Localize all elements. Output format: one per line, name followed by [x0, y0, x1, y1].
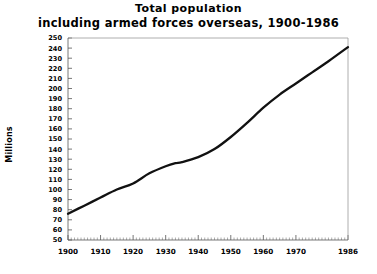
x-tick-label: 1960 [253, 247, 273, 256]
y-tick-label: 120 [48, 166, 62, 174]
population-line [68, 47, 348, 214]
y-tick-label: 60 [53, 226, 63, 234]
y-tick-label: 100 [48, 186, 62, 194]
y-tick-label: 230 [48, 55, 62, 63]
x-tick-label: 1950 [221, 247, 241, 256]
y-tick-label: 130 [48, 156, 62, 164]
y-tick-label: 160 [48, 125, 62, 133]
y-tick-label: 50 [53, 236, 63, 244]
x-tick-label: 1920 [123, 247, 143, 256]
x-tick-label: 1970 [286, 247, 306, 256]
y-tick-label: 80 [53, 206, 63, 214]
y-tick-label: 170 [48, 115, 62, 123]
x-tick-label: 1930 [156, 247, 176, 256]
x-tick-group [68, 235, 348, 240]
y-tick-label: 190 [48, 95, 62, 103]
y-tick-label: 180 [48, 105, 62, 113]
chart-svg: 5060708090100110120130140150160170180190… [0, 0, 377, 274]
y-tick-label: 200 [48, 85, 62, 93]
y-tick-label: 70 [53, 216, 63, 224]
x-tick-label: 1910 [91, 247, 111, 256]
y-tick-label: 240 [48, 45, 62, 53]
plot-area: 5060708090100110120130140150160170180190… [0, 0, 377, 274]
y-tick-label: 250 [48, 34, 62, 42]
y-tick-label: 90 [53, 196, 63, 204]
axis-frame [68, 38, 348, 240]
y-tick-label: 140 [48, 146, 62, 154]
x-tick-label-group: 190019101920193019401950196019701986 [58, 247, 358, 256]
x-tick-label: 1986 [338, 247, 358, 256]
x-tick-label: 1900 [58, 247, 78, 256]
x-tick-label: 1940 [188, 247, 208, 256]
y-tick-group [68, 38, 72, 240]
y-tick-label: 150 [48, 135, 62, 143]
y-tick-label: 110 [48, 176, 62, 184]
y-tick-label-group: 5060708090100110120130140150160170180190… [48, 34, 62, 244]
y-tick-label: 210 [48, 75, 62, 83]
y-tick-label: 220 [48, 65, 62, 73]
chart-page: Total population including armed forces … [0, 0, 377, 274]
